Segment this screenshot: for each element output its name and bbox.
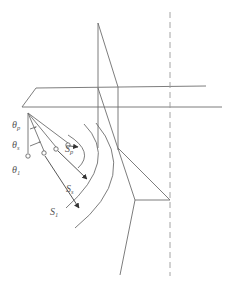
label-theta-1: θ1 [12,164,20,176]
angle-labels: θp θs θ1 [12,119,21,176]
label-s-p: Sp [65,143,74,155]
ray-diagram: θp θs θ1 Sp Ss S1 [0,0,234,289]
label-s-s: Ss [66,183,74,195]
source-rays [28,113,68,153]
vertical-plane [98,23,135,200]
label-theta-s: θs [12,139,20,151]
label-s-1: S1 [50,206,58,218]
label-theta-p: θp [12,119,21,131]
lower-wedge [118,148,170,275]
horizontal-plane [22,86,222,107]
arrow-sp [70,146,78,147]
wavefronts [66,123,114,228]
arrow-s1 [45,156,79,208]
propagation-arrows [45,146,87,208]
diagram-canvas: θp θs θ1 Sp Ss S1 [0,0,234,289]
arrow-ss [58,151,87,179]
